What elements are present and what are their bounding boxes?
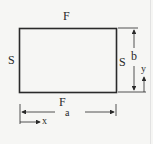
- x-axis-label: x: [42, 116, 47, 126]
- left-edge-label: S: [8, 54, 15, 66]
- plate-rectangle: [20, 29, 117, 93]
- height-dimension-label: b: [131, 50, 137, 62]
- top-edge-label: F: [63, 10, 70, 22]
- right-edge-label: S: [119, 56, 126, 68]
- width-dimension-label: a: [65, 108, 69, 118]
- plate-diagram: [0, 0, 153, 144]
- y-axis-label: y: [141, 64, 146, 74]
